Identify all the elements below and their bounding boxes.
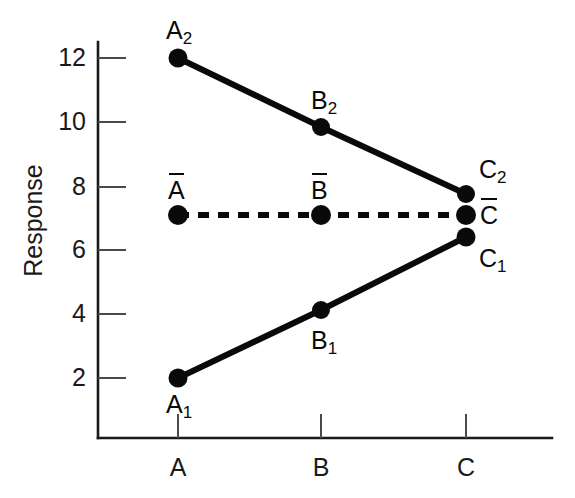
point-label-b2: B2 xyxy=(311,88,337,113)
point-label-a2-subscript: 2 xyxy=(183,29,192,48)
point-label-a1-subscript: 1 xyxy=(183,403,192,422)
data-point-a2 xyxy=(169,49,188,68)
y-axis-title: Response xyxy=(21,136,46,306)
point-label-c1: C1 xyxy=(479,246,507,271)
data-point-b2 xyxy=(312,118,330,136)
data-point-c2 xyxy=(457,185,475,203)
point-label-a-bar-base: A xyxy=(168,178,185,203)
point-label-b-bar-base: B xyxy=(311,178,328,203)
point-label-a2-base: A xyxy=(166,16,183,44)
x-tick-label-b: B xyxy=(297,455,345,480)
point-label-a-bar: A xyxy=(168,178,185,203)
point-label-b1-subscript: 1 xyxy=(328,339,337,358)
series-level-1 xyxy=(169,228,476,388)
data-point-a-bar xyxy=(168,205,188,225)
point-label-a2: A2 xyxy=(166,18,192,43)
point-label-c1-base: C xyxy=(479,244,497,272)
y-tick-label-12: 12 xyxy=(42,45,86,70)
point-label-b1-base: B xyxy=(311,326,328,354)
data-point-b1 xyxy=(312,301,330,319)
y-tick-label-8: 8 xyxy=(42,174,86,199)
point-label-c2: C2 xyxy=(479,157,507,182)
point-label-b2-base: B xyxy=(311,86,328,114)
y-tick-label-4: 4 xyxy=(42,301,86,326)
x-tick-marks xyxy=(178,414,466,438)
point-label-c-bar: C xyxy=(480,203,498,228)
point-label-b2-subscript: 2 xyxy=(328,99,337,118)
y-tick-label-10: 10 xyxy=(42,109,86,134)
point-label-c1-subscript: 1 xyxy=(497,257,506,276)
data-point-c-bar xyxy=(456,205,476,225)
y-tick-marks xyxy=(98,58,126,378)
point-label-b1: B1 xyxy=(311,328,337,353)
point-label-a1: A1 xyxy=(166,392,192,417)
series-mean xyxy=(168,205,476,225)
point-label-a1-base: A xyxy=(166,390,183,418)
data-point-c1 xyxy=(457,228,476,247)
point-label-c2-base: C xyxy=(479,155,497,183)
x-tick-label-a: A xyxy=(154,455,202,480)
x-tick-label-c: C xyxy=(442,455,490,480)
y-tick-label-6: 6 xyxy=(42,237,86,262)
point-label-c2-subscript: 2 xyxy=(497,168,506,187)
point-label-b-bar: B xyxy=(311,178,328,203)
y-tick-label-2: 2 xyxy=(42,365,86,390)
point-label-c-bar-base: C xyxy=(480,203,498,228)
data-point-b-bar xyxy=(311,205,331,225)
data-point-a1 xyxy=(169,369,188,388)
response-interaction-chart: 12 10 8 6 4 2 Response A B C A2 B2 C2 A … xyxy=(0,0,575,498)
